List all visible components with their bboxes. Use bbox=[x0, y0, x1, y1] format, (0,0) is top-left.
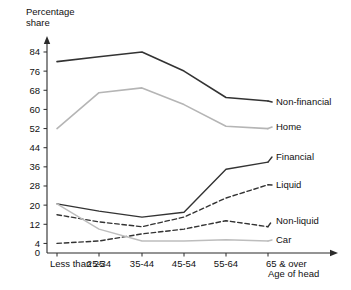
series-lines bbox=[57, 52, 272, 243]
y-tick-label: 76 bbox=[29, 66, 40, 77]
series-line-liquid bbox=[57, 185, 268, 227]
series-labels: Non-financialHomeFinancialLiquidNon-liqu… bbox=[276, 96, 331, 245]
series-leader-2 bbox=[268, 157, 272, 162]
series-label-home: Home bbox=[276, 121, 301, 132]
y-tick-label: 52 bbox=[29, 123, 40, 134]
y-tick-label: 44 bbox=[29, 142, 40, 153]
y-tick-label: 36 bbox=[29, 161, 40, 172]
series-leader-5 bbox=[268, 240, 272, 241]
y-tick-label: 12 bbox=[29, 219, 40, 230]
y-tick-label: 28 bbox=[29, 180, 40, 191]
y-tick-label: 20 bbox=[29, 200, 40, 211]
y-tick-label: 0 bbox=[35, 247, 40, 258]
y-tick-label: 84 bbox=[29, 46, 40, 57]
y-tick-label: 68 bbox=[29, 85, 40, 96]
y-tick-label: 60 bbox=[29, 104, 40, 115]
series-leader-4 bbox=[268, 221, 272, 227]
x-tick-label: 25-34 bbox=[87, 258, 111, 269]
series-line-non-financial bbox=[57, 52, 268, 101]
series-label-financial: Financial bbox=[276, 151, 314, 162]
series-leader-0 bbox=[268, 101, 272, 102]
x-tick-label: 45-54 bbox=[172, 258, 196, 269]
y-tick-labels: 0412202836445260687684 bbox=[29, 46, 47, 258]
line-chart-plot: 0412202836445260687684 Less than 2525-34… bbox=[0, 0, 351, 290]
y-tick-label: 4 bbox=[35, 238, 40, 249]
series-label-non-financial: Non-financial bbox=[276, 96, 331, 107]
series-label-liquid: Liquid bbox=[276, 179, 301, 190]
chart-container: Percentage share Age of head 04122028364… bbox=[0, 0, 351, 290]
x-tick-label: 65 & over bbox=[266, 258, 307, 269]
x-tick-labels: Less than 2525-3435-4445-5455-6465 & ove… bbox=[50, 253, 307, 269]
x-tick-label: 35-44 bbox=[130, 258, 154, 269]
series-leader-1 bbox=[268, 127, 272, 129]
series-label-car: Car bbox=[276, 234, 291, 245]
series-line-financial bbox=[57, 162, 268, 217]
series-line-home bbox=[57, 88, 268, 129]
series-label-non-liquid: Non-liquid bbox=[276, 215, 319, 226]
x-tick-label: 55-64 bbox=[214, 258, 238, 269]
